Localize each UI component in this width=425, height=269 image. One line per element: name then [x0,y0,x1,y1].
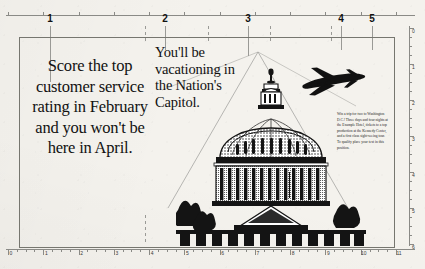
ruler-tick-minor [193,249,194,252]
ruler-tick-minor [26,249,27,252]
ruler-horizontal-top [0,8,425,22]
ruler-tick-minor [299,249,300,252]
ruler-tick-minor [167,249,168,252]
ruler-tick-minor [334,249,335,252]
ruler-tick-minor [409,118,412,119]
ruler-tick-label: 2 [80,250,83,256]
ruler-tick-label: 4 [412,172,415,178]
ruler-tick-minor [123,249,124,252]
ruler-tick-label: 4 [151,250,154,256]
ruler-tick-minor [308,249,309,252]
ruler-tick-minor [96,249,97,252]
column-guide-number: 4 [338,13,344,24]
ruler-tick-minor [409,73,412,74]
ruler-tick-minor [317,249,318,252]
ruler-tick-minor [409,163,412,164]
ruler-tick-label: 1 [45,250,48,256]
ruler-tick-minor [409,190,412,191]
ruler-tick-minor [409,127,412,128]
ruler-tick-minor [184,12,185,15]
ruler-tick-minor [387,249,388,252]
column-guide-number: 2 [162,13,168,24]
ruler-tick-label: 7 [257,250,260,256]
ruler-tick-label: 6 [412,244,415,250]
ruler-tick-minor [149,12,150,15]
ruler-top-line [6,15,415,16]
ruler-tick-minor [114,12,115,15]
ruler-tick-minor [61,249,62,252]
ruler-vertical-right: 0123456 [404,20,418,252]
ruler-tick-label: 10 [361,250,367,256]
ruler-tick-minor [409,37,412,38]
ruler-tick-minor [370,249,371,252]
ruler-tick-minor [52,249,53,252]
ruler-tick-minor [409,55,412,56]
ruler-tick-minor [343,249,344,252]
ruler-tick-minor [281,249,282,252]
ruler-tick-minor [140,249,141,252]
ruler-tick-minor [220,12,221,15]
ruler-tick-label: 9 [327,250,330,256]
ruler-tick-minor [131,249,132,252]
ruler-tick-label: 0 [10,250,13,256]
ruler-tick-minor [43,12,44,15]
ruler-tick-minor [409,154,412,155]
ruler-horizontal-bottom: 01234567891011 [0,242,425,256]
ruler-tick-minor [361,12,362,15]
ruler-tick-minor [158,249,159,252]
ruler-tick-minor [409,226,412,227]
ruler-tick-minor [409,91,412,92]
ruler-tick-minor [264,249,265,252]
ruler-tick-label: 3 [115,250,118,256]
headline-left: Score the top customer service rating in… [24,56,156,159]
ruler-tick-label: 2 [412,100,415,106]
ruler-tick-minor [290,12,291,15]
ruler-tick-label: 1 [412,64,415,70]
ruler-tick-minor [228,249,229,252]
ruler-tick-minor [34,249,35,252]
ruler-tick-minor [409,109,412,110]
ruler-tick-label: 3 [412,136,415,142]
ruler-tick-minor [352,249,353,252]
ruler-tick-minor [237,249,238,252]
column-guide-number: 3 [245,13,251,24]
ruler-tick-minor [87,249,88,252]
ruler-tick-minor [409,46,412,47]
ruler-tick-minor [409,82,412,83]
ruler-tick-minor [273,249,274,252]
column-guide-number: 1 [47,13,53,24]
ruler-tick-label: 0 [412,28,415,34]
ruler-tick-label: 8 [292,250,295,256]
ruler-tick-minor [255,12,256,15]
ruler-tick-minor [17,249,18,252]
ruler-tick-minor [409,145,412,146]
ruler-tick-minor [378,249,379,252]
ruler-tick-minor [176,249,177,252]
ruler-tick-minor [246,249,247,252]
body-copy-paragraph: Win a trip for two to Washington D.C.! T… [337,112,389,151]
ruler-tick-minor [325,12,326,15]
ruler-tick-minor [70,249,71,252]
airplane-silhouette-illustration [297,64,369,104]
ruler-tick-minor [409,199,412,200]
ruler-tick-minor [79,12,80,15]
ruler-tick-minor [202,249,203,252]
ruler-tick-minor [105,249,106,252]
column-guide-number: 5 [369,13,375,24]
ruler-tick-label: 5 [186,250,189,256]
ruler-tick-minor [8,12,9,15]
ruler-tick-minor [396,12,397,15]
ruler-tick-label: 5 [412,208,415,214]
ruler-tick-minor [409,235,412,236]
ruler-tick-minor [211,249,212,252]
layout-proof-page: 1 2 3 4 5 Score the top customer service… [0,0,425,269]
ruler-tick-label: 6 [221,250,224,256]
ruler-tick-minor [409,181,412,182]
ruler-tick-label: 11 [396,250,401,256]
ruler-tick-minor [409,217,412,218]
